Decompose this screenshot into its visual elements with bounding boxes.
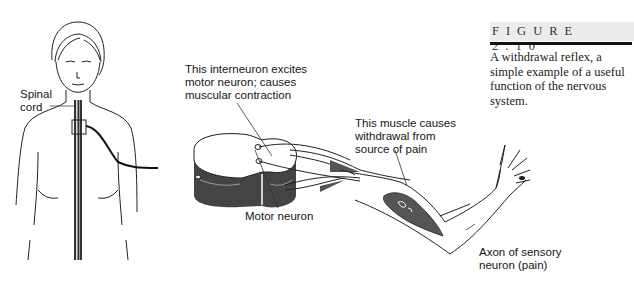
figure-caption: A withdrawal reflex, a simple example of…	[490, 50, 632, 108]
interneuron-label: This interneuron excites motor neuron; c…	[185, 63, 307, 102]
muscle-label: This muscle causes withdrawal from sourc…	[355, 117, 456, 156]
spinal-cord-label: Spinal cord	[20, 88, 52, 114]
motor-neuron-label: Motor neuron	[245, 210, 313, 223]
arm	[340, 145, 530, 254]
figure-rule	[490, 42, 632, 45]
sensory-axon-label: Axon of sensory neuron (pain)	[479, 246, 561, 272]
spinal-column	[72, 100, 86, 260]
